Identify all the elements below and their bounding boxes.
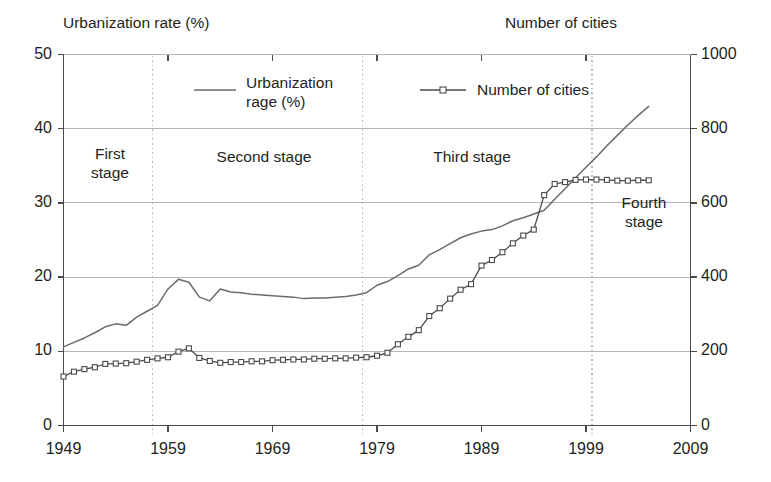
data-point-marker — [312, 356, 317, 361]
plot-canvas — [0, 0, 771, 482]
x-axis-tick-1959: 1959 — [133, 440, 203, 458]
stage-label-1: First stage — [66, 144, 154, 182]
data-point-marker — [197, 355, 202, 360]
data-point-marker — [542, 193, 547, 198]
data-point-marker — [113, 361, 118, 366]
y-axis-left-tick-0: 0 — [8, 416, 52, 434]
data-point-marker — [489, 258, 494, 263]
data-point-marker — [176, 349, 181, 354]
data-point-marker — [322, 356, 327, 361]
data-point-marker — [92, 365, 97, 370]
data-point-marker — [207, 358, 212, 363]
data-point-marker — [71, 369, 76, 374]
x-axis-tick-1949: 1949 — [29, 440, 99, 458]
y-axis-right-tick-600: 600 — [701, 193, 757, 211]
data-point-marker — [280, 357, 285, 362]
data-point-marker — [61, 374, 66, 379]
y-axis-right-tick-0: 0 — [701, 416, 757, 434]
data-point-marker — [239, 360, 244, 365]
legend-label-urbanization: Urbanization rage (%) — [246, 73, 333, 111]
data-point-marker — [427, 314, 432, 319]
data-point-marker — [354, 355, 359, 360]
chart-figure: Urbanization rate (%) Number of cities 5… — [0, 0, 771, 482]
data-point-marker — [573, 177, 578, 182]
data-point-marker — [145, 357, 150, 362]
y-axis-left-tick-10: 10 — [8, 341, 52, 359]
data-point-marker — [594, 177, 599, 182]
data-point-marker — [82, 367, 87, 372]
axis-frame — [58, 55, 697, 432]
data-point-marker — [124, 361, 129, 366]
data-point-marker — [134, 359, 139, 364]
legend-swatch-cities-marker — [440, 87, 446, 93]
data-point-marker — [469, 282, 474, 287]
data-point-marker — [479, 263, 484, 268]
y-axis-right-tick-800: 800 — [701, 119, 757, 137]
data-point-marker — [563, 180, 568, 185]
y-axis-right-tick-400: 400 — [701, 267, 757, 285]
y-axis-right-tick-1000: 1000 — [701, 45, 757, 63]
data-point-marker — [103, 361, 108, 366]
data-point-marker — [270, 358, 275, 363]
data-point-marker — [552, 181, 557, 186]
data-point-marker — [615, 178, 620, 183]
data-point-marker — [364, 355, 369, 360]
data-point-marker — [218, 360, 223, 365]
y-axis-left-tick-30: 30 — [8, 193, 52, 211]
data-point-marker — [228, 360, 233, 365]
data-point-marker — [343, 356, 348, 361]
gridlines — [64, 55, 691, 352]
series-urbanization-rate — [64, 106, 649, 346]
data-point-marker — [249, 359, 254, 364]
legend-label-cities: Number of cities — [477, 80, 589, 99]
left-axis-title: Urbanization rate (%) — [63, 14, 209, 32]
data-point-marker — [375, 353, 380, 358]
data-point-marker — [448, 296, 453, 301]
series-number-of-cities — [61, 177, 651, 379]
data-point-marker — [531, 227, 536, 232]
data-point-marker — [510, 241, 515, 246]
data-point-marker — [646, 178, 651, 183]
x-axis-tick-1999: 1999 — [551, 440, 621, 458]
data-point-marker — [186, 346, 191, 351]
data-point-marker — [385, 350, 390, 355]
data-point-marker — [166, 355, 171, 360]
data-point-marker — [291, 357, 296, 362]
data-point-marker — [416, 328, 421, 333]
data-point-marker — [636, 178, 641, 183]
right-axis-title: Number of cities — [505, 14, 617, 32]
data-point-marker — [155, 356, 160, 361]
y-axis-left-tick-50: 50 — [8, 45, 52, 63]
data-point-marker — [395, 342, 400, 347]
stage-dividers — [152, 56, 592, 434]
x-axis-tick-1969: 1969 — [238, 440, 308, 458]
data-point-marker — [333, 356, 338, 361]
data-point-marker — [604, 177, 609, 182]
y-axis-right-tick-200: 200 — [701, 341, 757, 359]
data-point-marker — [437, 306, 442, 311]
data-point-marker — [260, 359, 265, 364]
data-point-marker — [406, 334, 411, 339]
data-point-marker — [521, 233, 526, 238]
stage-label-2: Second stage — [168, 147, 360, 166]
data-point-marker — [625, 178, 630, 183]
x-axis-tick-2009: 2009 — [656, 440, 726, 458]
stage-label-3: Third stage — [382, 147, 562, 166]
data-point-marker — [301, 357, 306, 362]
x-axis-tick-1979: 1979 — [342, 440, 412, 458]
stage-label-4: Fourth stage — [600, 193, 688, 231]
y-axis-left-tick-40: 40 — [8, 119, 52, 137]
data-point-marker — [584, 177, 589, 182]
data-point-marker — [458, 287, 463, 292]
data-point-marker — [500, 250, 505, 255]
x-axis-tick-1989: 1989 — [447, 440, 517, 458]
y-axis-left-tick-20: 20 — [8, 267, 52, 285]
